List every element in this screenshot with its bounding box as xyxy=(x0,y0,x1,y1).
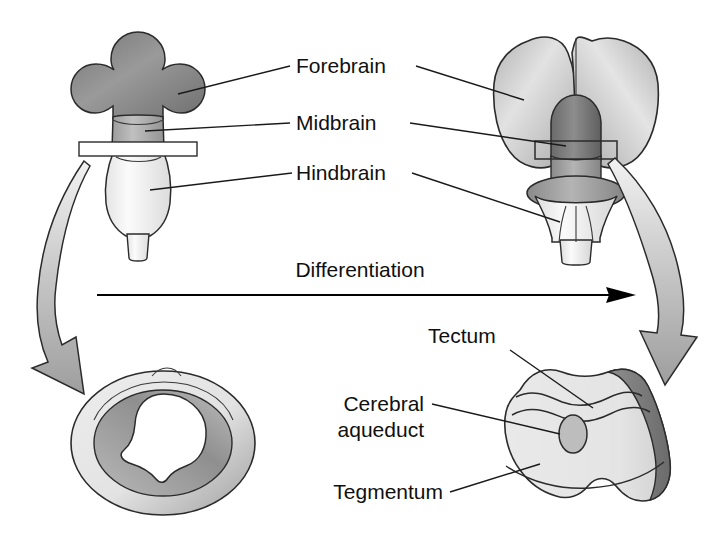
section-arrow-right-body xyxy=(608,158,697,385)
hindbrain-label: Hindbrain xyxy=(296,161,386,184)
hindbrain-leader-left xyxy=(150,173,292,190)
adult-brain-illustration xyxy=(494,37,659,265)
adult-midbrain-shape xyxy=(551,95,601,164)
cerebral-aqueduct-label-line2: aqueduct xyxy=(338,418,425,441)
adult-midbrain-section-illustration xyxy=(505,369,671,501)
section-arrow-right xyxy=(608,158,697,385)
section-arrow-left-body xyxy=(32,161,90,394)
adult-section-cerebral-aqueduct xyxy=(559,415,587,453)
adult-spinal-cord-shape xyxy=(560,240,592,265)
embryonic-section-plane xyxy=(79,142,197,156)
tectum-label: Tectum xyxy=(428,324,496,347)
forebrain-label: Forebrain xyxy=(296,54,386,77)
embryonic-hindbrain-shape xyxy=(105,150,170,236)
tegmentum-label: Tegmentum xyxy=(333,480,443,503)
brain-differentiation-diagram: Forebrain Midbrain Hindbrain Differentia… xyxy=(0,0,720,539)
differentiation-arrow-head xyxy=(606,287,636,303)
section-arrow-left xyxy=(32,161,90,394)
midbrain-leader-left xyxy=(145,123,290,131)
differentiation-process: Differentiation xyxy=(97,258,636,303)
embryonic-brain-illustration xyxy=(71,32,205,261)
midbrain-label: Midbrain xyxy=(296,111,377,134)
differentiation-label: Differentiation xyxy=(295,258,424,281)
embryonic-cross-section-illustration xyxy=(71,368,255,515)
embryonic-spinal-cord-shape xyxy=(127,234,149,261)
embryonic-forebrain-shape xyxy=(71,32,205,119)
cerebral-aqueduct-label-line1: Cerebral xyxy=(343,392,424,415)
